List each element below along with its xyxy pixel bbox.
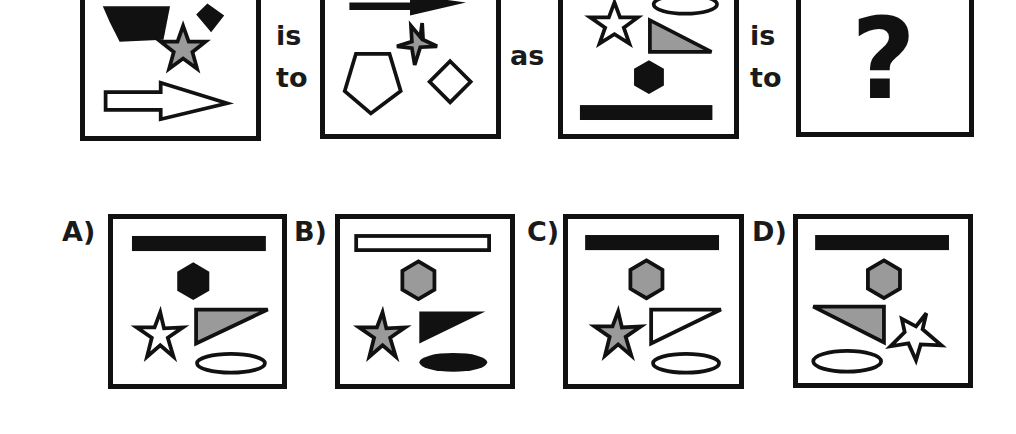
box-2-shapes xyxy=(325,0,496,134)
option-c-label: C) xyxy=(527,218,559,245)
option-a-shapes xyxy=(113,219,282,384)
ellipse-icon xyxy=(813,351,881,372)
box-1-shapes xyxy=(85,0,256,136)
star-icon xyxy=(161,26,206,69)
connector-as: as xyxy=(510,42,544,69)
star-icon xyxy=(137,312,183,356)
ellipse-icon xyxy=(197,354,265,373)
connector-to-1: to xyxy=(276,64,307,91)
star-icon xyxy=(397,23,437,65)
analogy-box-1 xyxy=(80,0,261,141)
option-a-label: A) xyxy=(62,218,95,245)
ellipse-icon xyxy=(653,354,719,373)
arrow-icon xyxy=(106,83,227,119)
connector-is-1: is xyxy=(276,22,301,49)
option-a[interactable] xyxy=(108,214,287,389)
pentagon-icon xyxy=(103,6,170,41)
analogy-box-3 xyxy=(558,0,739,139)
option-d[interactable] xyxy=(793,214,973,388)
star-icon xyxy=(891,313,942,360)
star-icon xyxy=(359,312,405,356)
triangle-icon xyxy=(419,311,485,343)
triangle-icon xyxy=(651,310,721,344)
pentagon-icon xyxy=(345,54,401,114)
star-icon xyxy=(595,311,641,355)
triangle-icon xyxy=(196,310,268,344)
hexagon-icon xyxy=(177,262,209,300)
triangle-icon xyxy=(650,20,712,52)
option-b-shapes xyxy=(340,219,510,384)
diamond-icon xyxy=(430,61,471,102)
bar-icon xyxy=(580,105,712,120)
star-icon xyxy=(590,2,638,43)
bar-icon xyxy=(585,235,719,250)
bar-icon xyxy=(815,235,949,250)
ellipse-icon xyxy=(654,0,717,14)
hexagon-icon xyxy=(402,261,434,299)
hexagon-icon xyxy=(868,260,900,298)
ellipse-icon xyxy=(419,353,487,372)
bar-icon xyxy=(356,236,489,250)
option-b-label: B) xyxy=(294,218,327,245)
hexagon-icon xyxy=(634,60,664,94)
hexagon-icon xyxy=(630,260,662,298)
option-d-label: D) xyxy=(752,218,787,245)
option-c-shapes xyxy=(568,219,739,384)
connector-to-2: to xyxy=(750,64,781,91)
triangle-icon xyxy=(813,307,884,343)
box-3-shapes xyxy=(563,0,734,134)
option-b[interactable] xyxy=(335,214,515,389)
option-d-shapes xyxy=(798,219,968,383)
arrow-icon xyxy=(349,0,466,16)
option-c[interactable] xyxy=(563,214,744,389)
diamond-icon xyxy=(196,3,224,32)
question-mark-icon: ? xyxy=(851,3,916,115)
analogy-box-4-unknown: ? xyxy=(796,0,974,137)
bar-icon xyxy=(132,236,266,251)
connector-is-2: is xyxy=(750,22,775,49)
analogy-box-2 xyxy=(320,0,501,139)
